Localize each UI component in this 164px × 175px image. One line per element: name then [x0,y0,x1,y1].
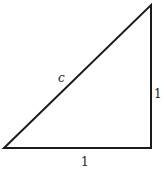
vertical-leg-label: 1 [154,88,162,100]
horizontal-leg-label: 1 [81,156,89,168]
triangle-shape [4,5,151,148]
hypotenuse-label: c [58,72,65,84]
right-triangle-diagram [0,0,164,175]
